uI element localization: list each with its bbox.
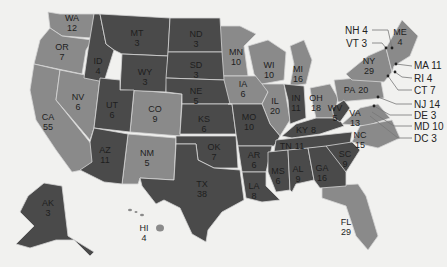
callout-VT: VT 3 [346,38,367,49]
label-KY: KY8 [296,125,316,135]
label-MO: MO10 [242,112,257,132]
label-SC: SC9 [339,149,352,169]
label-NV: NV6 [72,92,85,112]
label-SD: SD3 [190,60,203,80]
label-IL: IL20 [270,96,280,116]
label-FL: FL29 [341,217,352,237]
label-NM: NM5 [140,148,154,168]
label-CO: CO9 [148,104,162,124]
label-VA: VA13 [349,108,360,128]
label-ND: ND3 [190,29,203,49]
label-WA: WA12 [65,13,79,33]
callout-NJ: NJ 14 [414,99,440,110]
label-MN: MN10 [229,47,243,67]
callout-DC: DC 3 [414,133,437,144]
label-WI: WI10 [264,60,275,80]
us-electoral-map [0,0,447,267]
label-AK: AK3 [42,198,54,218]
callout-DE: DE 3 [414,110,436,121]
label-OH: OH18 [309,93,323,113]
label-HI: HI4 [140,223,149,243]
label-TX: TX38 [196,179,208,199]
label-TN: TN11 [280,141,304,151]
callout-NH: NH 4 [345,25,368,36]
label-NE: NE5 [190,86,203,106]
label-AZ: AZ11 [99,145,111,165]
label-KS: KS6 [198,114,210,134]
label-IA: IA6 [239,79,248,99]
label-ME: ME4 [393,27,407,47]
label-OK: OK7 [207,142,220,162]
label-WV: WV5 [328,103,343,123]
label-LA: LA8 [248,181,259,201]
label-MI: MI16 [293,64,303,84]
label-IN: IN11 [291,93,300,113]
callout-RI: RI 4 [414,73,432,84]
label-UT: UT6 [106,100,118,120]
label-ID: ID4 [94,56,103,76]
callout-MA: MA 11 [414,60,442,71]
label-NC: NC15 [354,130,367,150]
label-GA: GA16 [315,163,328,183]
label-MT: MT3 [131,28,144,48]
label-PA: PA20 [344,85,368,95]
callout-MD: MD 10 [414,121,443,132]
label-AR: AR6 [248,150,261,170]
label-NY: NY29 [363,56,376,76]
label-OR: OR7 [55,42,69,62]
state-AK[interactable] [16,183,94,256]
label-CA: CA55 [42,112,55,132]
label-AL: AL9 [292,164,303,184]
label-WY: WY3 [138,67,153,87]
callout-CT: CT 7 [414,85,436,96]
label-MS: MS6 [271,166,285,186]
